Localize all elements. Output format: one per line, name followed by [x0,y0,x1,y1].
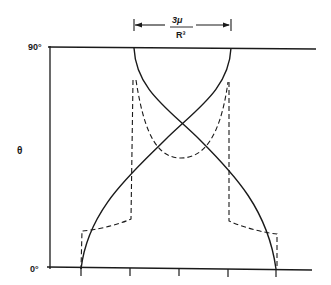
dashed-curve-left [81,80,133,269]
top-line-90 [48,47,316,49]
solid-curve-right [81,48,231,269]
dimension-label-numerator: 3μ [172,15,183,25]
solid-curve-left [134,48,276,269]
y-axis-label: θ [17,145,22,156]
theta-distribution-diagram: 90° 0° θ 3μ R³ [0,0,331,285]
dimension-label-denominator: R³ [176,30,186,40]
x-axis-ticks [81,267,276,277]
y-tick-90: 90° [28,42,42,52]
y-tick-0: 0° [30,264,39,274]
